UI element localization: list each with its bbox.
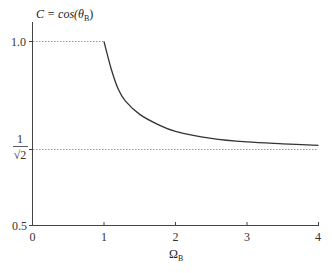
x-tick-label-1: 1 — [101, 230, 107, 244]
x-tick-label-3: 3 — [244, 230, 250, 244]
y-tick-label-1: 1.0 — [11, 35, 26, 49]
x-axis-title: ΩB — [169, 247, 183, 263]
curve-series — [104, 42, 319, 146]
chart: 1.0 1 √2 0.5 0 1 2 3 4 C = cos(θB) ΩB — [0, 0, 332, 273]
y-tick-label-05: 0.5 — [12, 219, 27, 233]
y-tick-label-rt2-den: √2 — [14, 148, 27, 162]
y-tick-label-rt2-num: 1 — [17, 132, 23, 146]
x-tick-label-2: 2 — [173, 230, 179, 244]
y-axis-title: C = cos(θB) — [36, 7, 93, 23]
x-tick-label-0: 0 — [30, 230, 36, 244]
x-tick-label-4: 4 — [315, 230, 321, 244]
